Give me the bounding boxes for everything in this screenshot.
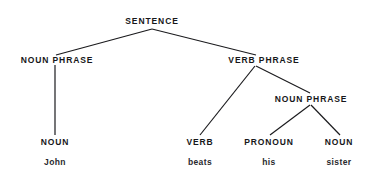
tree-node-vp: VERB PHRASE	[228, 56, 299, 65]
tree-node-s: SENTENCE	[125, 17, 179, 26]
tree-word-w1: John	[44, 158, 66, 167]
tree-word-w2: beats	[188, 158, 212, 167]
tree-edge-vp-v	[200, 66, 255, 135]
tree-edge-vp-np2	[256, 66, 310, 93]
tree-node-n1: NOUN	[41, 138, 70, 147]
tree-node-v: VERB	[186, 138, 213, 147]
tree-word-w3: his	[262, 158, 275, 167]
tree-edge-s-vp	[152, 29, 256, 55]
syntax-tree-diagram: SENTENCENOUN PHRASEVERB PHRASENOUN PHRAS…	[0, 0, 372, 176]
tree-edge-s-np1	[56, 29, 152, 55]
tree-edges-layer	[0, 0, 372, 176]
tree-node-pron: PRONOUN	[244, 138, 294, 147]
tree-edge-np2-n2	[311, 105, 340, 135]
tree-node-n2: NOUN	[325, 138, 354, 147]
tree-node-np2: NOUN PHRASE	[275, 95, 348, 104]
tree-node-np1: NOUN PHRASE	[21, 56, 94, 65]
tree-edge-np2-pron	[270, 105, 310, 135]
tree-word-w4: sister	[326, 158, 351, 167]
